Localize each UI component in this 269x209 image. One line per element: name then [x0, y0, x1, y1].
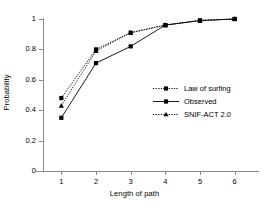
legend-label: Observed — [184, 96, 217, 107]
x-axis-line — [36, 171, 259, 172]
data-point-marker — [59, 103, 64, 108]
data-point-marker — [59, 96, 63, 100]
y-tick-mark — [39, 80, 43, 81]
x-tick-label: 1 — [51, 177, 71, 186]
y-tick-mark — [39, 171, 43, 172]
legend-item[interactable]: Law of surfing — [152, 82, 264, 95]
y-tick-mark — [39, 49, 43, 50]
y-axis-title: Probability — [2, 63, 11, 123]
data-point-marker — [129, 44, 133, 48]
y-tick-label: 1 — [10, 14, 36, 23]
legend-item[interactable]: Observed — [152, 95, 264, 108]
x-tick-label: 4 — [155, 177, 175, 186]
y-tick-mark — [39, 141, 43, 142]
x-tick-label: 5 — [190, 177, 210, 186]
data-point-marker — [94, 61, 98, 65]
legend-marker-icon — [152, 109, 180, 120]
x-tick-mark — [165, 171, 166, 175]
y-tick-mark — [39, 19, 43, 20]
legend-label: Law of surfing — [184, 83, 231, 94]
y-tick-label: 0.4 — [10, 105, 36, 114]
data-point-marker — [59, 116, 63, 120]
chart-figure: 00.20.40.60.81 123456 Probability Length… — [0, 0, 269, 209]
y-tick-label: 0.6 — [10, 75, 36, 84]
y-tick-label: 0.2 — [10, 136, 36, 145]
y-tick-mark — [39, 110, 43, 111]
legend-label: SNIF-ACT 2.0 — [184, 109, 231, 120]
x-tick-label: 6 — [225, 177, 245, 186]
y-tick-label: 0 — [10, 166, 36, 175]
x-tick-mark — [96, 171, 97, 175]
x-tick-mark — [61, 171, 62, 175]
legend-item[interactable]: SNIF-ACT 2.0 — [152, 108, 264, 121]
legend-marker-icon — [152, 83, 180, 94]
x-tick-mark — [200, 171, 201, 175]
x-tick-label: 2 — [86, 177, 106, 186]
y-tick-label: 0.8 — [10, 44, 36, 53]
x-tick-mark — [131, 171, 132, 175]
legend-marker-icon — [152, 96, 180, 107]
x-axis-title: Length of path — [0, 189, 269, 198]
x-tick-label: 3 — [121, 177, 141, 186]
legend: Law of surfingObservedSNIF-ACT 2.0 — [152, 82, 264, 121]
x-tick-mark — [235, 171, 236, 175]
